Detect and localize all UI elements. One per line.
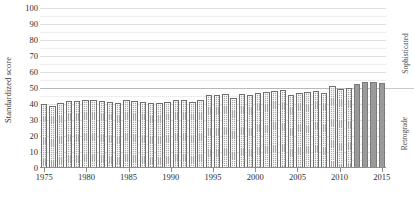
bar [156,103,162,168]
bar [222,94,228,168]
bar [197,100,203,168]
bar [49,106,55,168]
bar [131,101,137,168]
bar [263,92,269,168]
bar [337,89,343,168]
x-tick-label: 2005 [289,172,306,182]
x-tick-label: 1985 [120,172,137,182]
bar [189,102,195,168]
y-tick-label: 10 [14,148,38,157]
y-axis-title-text: Standardized score [3,57,13,123]
bar [304,92,310,168]
x-tick-label: 2010 [331,172,348,182]
bar [107,102,113,168]
bar [173,100,179,168]
y-tick-label: 60 [14,68,38,77]
y-tick-label: 90 [14,20,38,29]
x-tick-label: 1980 [78,172,95,182]
bar [362,82,368,168]
bar [247,95,253,168]
bar [82,100,88,168]
bar [140,102,146,168]
annotation-sophisticated-text: Sophisticated [401,33,410,73]
bar [255,93,261,168]
y-axis-tick-labels: 0102030405060708090100 [14,8,38,168]
bar [123,100,129,168]
bar-chart-figure: Standardized score 010203040506070809010… [0,0,414,215]
y-tick-label: 100 [14,4,38,13]
x-tick-label: 2000 [247,172,264,182]
bar [115,103,121,168]
bar [271,91,277,168]
y-tick-label: 80 [14,36,38,45]
bar [57,103,63,168]
bar [90,100,96,168]
bar [239,94,245,168]
bar [354,84,360,168]
bar [230,98,236,168]
x-tick-label: 1975 [36,172,53,182]
bar [41,104,47,168]
bar [288,95,294,168]
y-tick-label: 20 [14,132,38,141]
bar [296,93,302,168]
bar [370,82,376,168]
annotation-retrograde-text: Retrograde [401,116,410,149]
bars-layer [40,8,386,168]
bar [329,86,335,168]
plot-area [40,8,386,168]
bar [280,90,286,168]
x-tick-label: 1995 [205,172,222,182]
bar [164,102,170,168]
y-tick-label: 30 [14,116,38,125]
bar [214,95,220,168]
bar [66,101,72,168]
y-tick-label: 50 [14,84,38,93]
x-tick-label: 2015 [373,172,390,182]
y-tick-label: 70 [14,52,38,61]
bar [206,95,212,168]
annotation-sophisticated: Sophisticated [398,16,412,90]
annotation-retrograde: Retrograde [398,96,412,170]
bar [313,91,319,168]
y-tick-label: 0 [14,164,38,173]
bar [99,101,105,168]
bar [321,93,327,168]
bar [148,103,154,168]
y-tick-label: 40 [14,100,38,109]
bar [181,100,187,168]
x-tick-label: 1990 [162,172,179,182]
x-axis-tick-labels: 197519801985199019952000200520102015 [40,172,386,188]
bar [74,101,80,168]
bar [346,88,352,168]
bar [379,83,385,168]
